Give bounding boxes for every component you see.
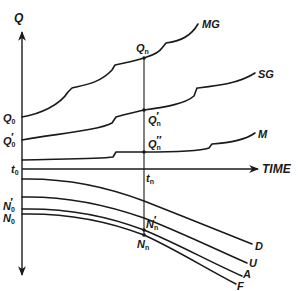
u-curve	[22, 197, 247, 263]
mg-curve	[22, 24, 198, 117]
a-curve	[22, 209, 242, 276]
time-axis-label: TIME	[262, 162, 292, 176]
nn-label: Nn	[137, 238, 149, 251]
tn-label: tn	[146, 172, 154, 185]
a-label: A	[242, 268, 251, 280]
qn-double-prime-point	[142, 150, 146, 154]
q0-label: Q0	[3, 112, 16, 125]
sg-curve	[22, 73, 255, 140]
qn-prime-point	[142, 108, 146, 112]
sg-label: SG	[258, 68, 274, 80]
mg-label: MG	[202, 18, 220, 30]
d-label: D	[255, 240, 263, 252]
nn-point	[142, 233, 146, 237]
n0-prime-label: N0′	[3, 196, 15, 213]
d-curve	[22, 179, 252, 244]
t0-label: t0	[11, 163, 19, 176]
qn-double-prime-label: Qn″	[148, 134, 162, 151]
q-axis-label: Q	[14, 11, 24, 25]
qn-prime-label: Qn′	[148, 110, 161, 127]
qn-label: Qn	[136, 42, 149, 55]
m-label: M	[258, 128, 268, 140]
n0-label: N0	[3, 212, 15, 225]
f-label: F	[237, 280, 244, 291]
q0-prime-label: Q0′	[3, 131, 16, 148]
m-curve	[22, 133, 255, 160]
growth-diagram: Q TIME MG SG M D U A F Q0 Q0′ t0 N0′ N0 …	[0, 0, 298, 291]
qn-point	[142, 56, 146, 60]
